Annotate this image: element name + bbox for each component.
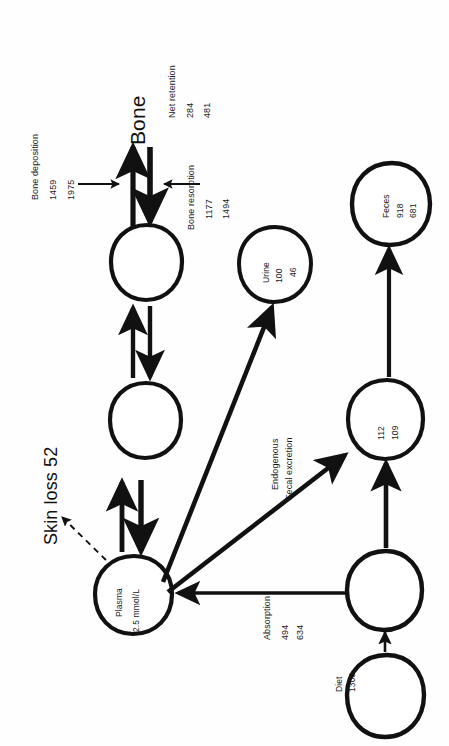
urine-label-text: Urine: [261, 262, 271, 283]
bone-resorption-label: Bone resorption: [186, 165, 196, 230]
bone-resorption-value-2: 1494: [221, 199, 231, 219]
feces-value-1: 918: [395, 204, 405, 218]
net-retention-label: Net retention: [167, 65, 177, 118]
bone-deposition-label: Bone deposition: [30, 134, 40, 200]
net-retention-value-1-wrap: 284: [186, 103, 196, 118]
arrow-endogenous-fecal-excretion: [168, 455, 345, 592]
bone-deposition-value-2-wrap: 1975: [67, 180, 77, 200]
node-feces-label: Feces: [382, 194, 391, 218]
flux-net-retention: Net retention: [168, 65, 178, 118]
absorption-label: Absorption: [262, 596, 272, 640]
bone-deposition-value-1-wrap: 1459: [49, 180, 59, 200]
node-gut: [347, 551, 422, 630]
calcium-metabolism-diagram: [0, 0, 449, 746]
absorption-value-2: 634: [295, 625, 305, 640]
plasma-label-text: Plasma: [114, 588, 124, 617]
net-retention-value-1: 284: [185, 103, 195, 118]
diet-value: 1300: [347, 673, 357, 692]
absorption-value-1-wrap: 494: [281, 625, 291, 640]
absorption-value-2-wrap: 634: [296, 625, 306, 640]
plasma-value: 2.5 mmol/L: [131, 589, 141, 632]
flux-skin-loss: Skin loss 52: [42, 447, 61, 545]
arrow-skin-loss: [62, 517, 106, 560]
bone-deposition-value-2: 1975: [66, 180, 76, 200]
urine-value-2-wrap: 46: [289, 267, 298, 277]
flux-absorption: Absorption: [263, 596, 273, 640]
endogenous-fecal-line-2: Fecal excretion: [284, 437, 294, 500]
diet-label-text: Diet: [334, 676, 344, 692]
intestine-value-1: 112: [376, 426, 386, 440]
skin-loss-label: Skin loss 52: [41, 447, 61, 545]
node-diet-label: Diet: [335, 676, 344, 692]
bone-resorption-value-1: 1177: [204, 199, 214, 219]
feces-value-1-wrap: 918: [396, 204, 405, 218]
diagram-canvas: Net retention 284 481 Bone Bone depositi…: [0, 0, 449, 746]
urine-value-1: 100: [274, 269, 284, 283]
flux-bone-deposition: Bone deposition: [31, 134, 41, 200]
page-title: Bone: [127, 96, 150, 145]
intestine-value-2-wrap: 109: [391, 426, 400, 440]
absorption-value-1: 494: [280, 625, 290, 640]
intestine-value-1-wrap: 112: [377, 426, 386, 440]
bone-title-text: Bone: [126, 96, 149, 145]
node-intestinal-lumen: [348, 380, 423, 459]
node-urine-label: Urine: [262, 262, 271, 283]
urine-value-2: 46: [288, 267, 298, 277]
arrow-plasma-to-urine: [163, 307, 272, 582]
intestine-value-2: 109: [390, 426, 400, 440]
bone-deposition-value-1: 1459: [48, 180, 58, 200]
plasma-value-wrap: 2.5 mmol/L: [132, 589, 141, 632]
feces-value-2: 681: [408, 204, 418, 218]
node-plasma-label: Plasma: [115, 588, 124, 617]
flux-endogenous-fecal-line-2: Fecal excretion: [285, 437, 295, 500]
diet-value-wrap: 1300: [348, 673, 357, 692]
feces-label-text: Feces: [381, 194, 391, 218]
node-urine: [239, 227, 311, 302]
flux-bone-resorption: Bone resorption: [187, 165, 197, 230]
bone-resorption-value-2-wrap: 1494: [222, 199, 232, 219]
feces-value-2-wrap: 681: [409, 204, 418, 218]
node-bone-compartment: [111, 225, 182, 300]
node-diet: [347, 655, 424, 737]
flux-endogenous-fecal-line-1: Endogenous: [271, 438, 281, 490]
bone-resorption-value-1-wrap: 1177: [205, 199, 215, 219]
net-retention-value-2: 481: [202, 103, 212, 118]
endogenous-fecal-line-1: Endogenous: [270, 438, 280, 490]
net-retention-value-2-wrap: 481: [203, 103, 213, 118]
urine-value-1-wrap: 100: [275, 269, 284, 283]
node-exchangeable-pool: [110, 383, 181, 458]
